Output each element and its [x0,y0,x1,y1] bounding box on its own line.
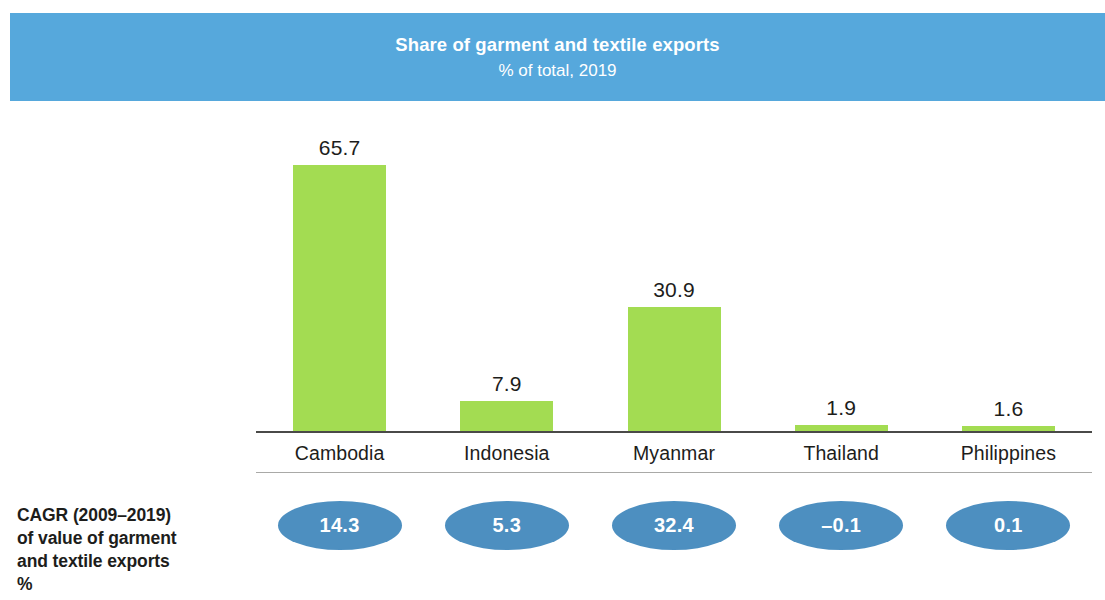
chart-subtitle: % of total, 2019 [498,59,616,83]
cagr-bubble: 0.1 [946,501,1070,550]
chart-title: Share of garment and textile exports [395,33,719,56]
category-label: Indonesia [423,434,590,472]
cagr-cell: 14.3 [256,494,423,556]
bar-slot: 30.9 [590,120,757,433]
cagr-row-caption: CAGR (2009–2019) of value of garment and… [17,504,247,596]
bar-slot: 1.6 [925,120,1092,433]
cagr-bubble: –0.1 [779,501,903,550]
category-label: Philippines [925,434,1092,472]
category-axis-line [256,431,1092,433]
category-label: Thailand [758,434,925,472]
bar-value-label: 7.9 [492,373,522,394]
cagr-cell: –0.1 [758,494,925,556]
cagr-cell: 0.1 [925,494,1092,556]
bar-rect [628,307,721,433]
bar-slot: 7.9 [423,120,590,433]
cagr-bubble: 5.3 [445,501,569,550]
bar-slot: 1.9 [758,120,925,433]
category-label: Myanmar [590,434,757,472]
bar-rect [293,165,386,433]
cagr-bubble: 14.3 [278,501,402,550]
bar-group: 65.77.930.91.91.6 [256,120,1092,433]
cagr-cell: 32.4 [590,494,757,556]
bar-value-label: 30.9 [653,279,695,300]
section-divider-line [256,472,1092,473]
bar-value-label: 1.6 [994,398,1024,419]
bar-value-label: 1.9 [826,397,856,418]
cagr-bubble-row: 14.35.332.4–0.10.1 [256,494,1092,556]
bar-chart-plot-area: 65.77.930.91.91.6 [256,120,1092,433]
cagr-caption-line-3: and textile exports [17,551,170,571]
bar-value-label: 65.7 [319,137,361,158]
category-label-row: CambodiaIndonesiaMyanmarThailandPhilippi… [256,434,1092,472]
cagr-cell: 5.3 [423,494,590,556]
category-label: Cambodia [256,434,423,472]
bar-slot: 65.7 [256,120,423,433]
cagr-caption-line-1: CAGR (2009–2019) [17,505,171,525]
top-margin [0,0,1105,13]
cagr-caption-unit: % [17,573,247,596]
bar-rect [460,401,553,433]
chart-header-banner: Share of garment and textile exports % o… [10,13,1105,101]
cagr-bubble: 32.4 [612,501,736,550]
cagr-caption-line-2: of value of garment [17,528,177,548]
chart-figure: Share of garment and textile exports % o… [0,0,1105,600]
